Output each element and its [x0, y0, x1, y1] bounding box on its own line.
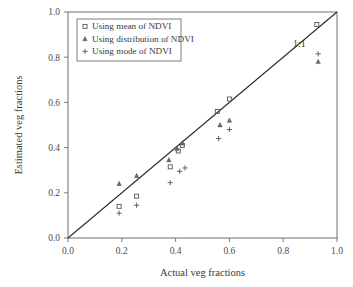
- data-point-triangle: [218, 122, 222, 126]
- data-point-plus: [134, 203, 139, 208]
- legend-item[interactable]: Using mode of NDVI: [82, 46, 171, 56]
- data-point-plus: [177, 169, 182, 174]
- y-tick-label: 0.6: [48, 98, 60, 108]
- legend-item[interactable]: Using distribution of NDVI: [83, 34, 194, 44]
- data-point-square: [315, 22, 319, 26]
- data-point-triangle: [227, 118, 231, 122]
- series-group: [117, 59, 320, 185]
- x-axis-title: Actual veg fractions: [160, 267, 245, 278]
- data-point-square: [117, 204, 121, 208]
- annotation-layer: 1:1: [293, 38, 306, 49]
- data-point-plus: [168, 180, 173, 185]
- data-point-square: [168, 165, 172, 169]
- data-point-triangle: [316, 59, 320, 63]
- data-point-square: [135, 194, 139, 198]
- y-tick-label: 0.2: [48, 188, 60, 198]
- legend-item-label: Using mean of NDVI: [92, 21, 171, 31]
- x-tick-label: 0.2: [116, 246, 128, 256]
- legend: Using mean of NDVIUsing distribution of …: [77, 19, 194, 61]
- y-axis-title: Estimated veg fractions: [13, 75, 24, 174]
- y-tick-label: 0.0: [48, 233, 60, 243]
- data-point-triangle: [167, 158, 171, 162]
- data-point-plus: [117, 211, 122, 216]
- data-point-plus: [182, 165, 187, 170]
- data-point-plus: [227, 127, 232, 132]
- x-tick-label: 0.8: [277, 246, 289, 256]
- data-point-plus: [316, 51, 321, 56]
- figure-container: 0.00.20.40.60.81.00.00.20.40.60.81.0Actu…: [0, 0, 353, 287]
- x-tick-label: 0.6: [223, 246, 235, 256]
- x-tick-label: 0.0: [62, 246, 74, 256]
- legend-item[interactable]: Using mean of NDVI: [83, 21, 171, 31]
- x-tick-label: 0.4: [170, 246, 182, 256]
- data-point-plus: [216, 136, 221, 141]
- data-point-triangle: [117, 181, 121, 185]
- y-tick-label: 1.0: [48, 7, 60, 17]
- y-tick-label: 0.4: [48, 143, 60, 153]
- data-point-square: [227, 97, 231, 101]
- legend-item-label: Using mode of NDVI: [92, 46, 172, 56]
- series-group: [117, 51, 321, 216]
- scatter-plot: 0.00.20.40.60.81.00.00.20.40.60.81.0Actu…: [0, 0, 353, 287]
- y-tick-label: 0.8: [48, 53, 60, 63]
- data-point-triangle: [134, 173, 138, 177]
- annotation-label: 1:1: [293, 38, 306, 49]
- legend-item-label: Using distribution of NDVI: [92, 34, 194, 44]
- x-tick-label: 1.0: [331, 246, 343, 256]
